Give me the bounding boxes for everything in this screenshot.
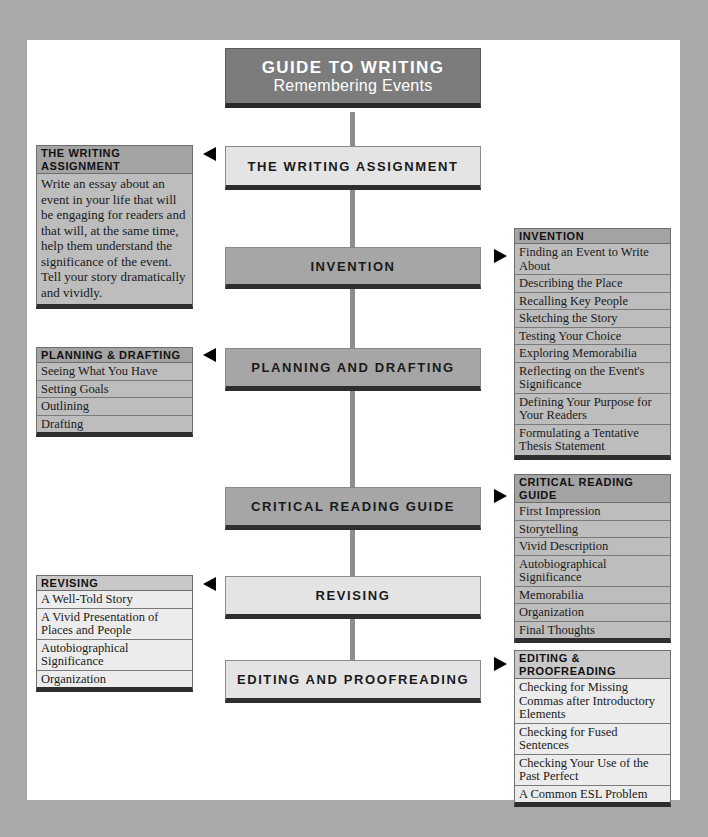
editing-proofreading-box: EDITING & PROOFREADING Checking for Miss… xyxy=(514,650,671,807)
list-item[interactable]: Seeing What You Have xyxy=(37,363,192,381)
stage-invention[interactable]: INVENTION xyxy=(225,247,481,289)
stage-label: REVISING xyxy=(316,588,391,603)
assignment-text: Write an essay about an event in your li… xyxy=(37,174,192,304)
box-header: CRITICAL READING GUIDE xyxy=(515,475,670,503)
list-item[interactable]: Checking for Fused Sentences xyxy=(515,724,670,755)
list-item[interactable]: Organization xyxy=(515,604,670,622)
box-header: REVISING xyxy=(37,576,192,591)
list-item[interactable]: Describing the Place xyxy=(515,275,670,293)
arrow-right-icon xyxy=(494,657,507,671)
stage-editing-proofreading[interactable]: EDITING AND PROOFREADING xyxy=(225,660,481,703)
box-header: THE WRITING ASSIGNMENT xyxy=(37,146,192,174)
list-item[interactable]: Storytelling xyxy=(515,521,670,539)
list-item[interactable]: Sketching the Story xyxy=(515,310,670,328)
list-item[interactable]: First Impression xyxy=(515,503,670,521)
arrow-left-icon xyxy=(203,147,216,161)
arrow-left-icon xyxy=(203,348,216,362)
writing-assignment-box: THE WRITING ASSIGNMENT Write an essay ab… xyxy=(36,145,193,309)
arrow-right-icon xyxy=(494,489,507,503)
list-item[interactable]: Vivid Description xyxy=(515,538,670,556)
list-item[interactable]: Outlining xyxy=(37,398,192,416)
box-header: PLANNING & DRAFTING xyxy=(37,348,192,363)
list-item[interactable]: Exploring Memorabilia xyxy=(515,345,670,363)
arrow-left-icon xyxy=(203,577,216,591)
list-item[interactable]: Recalling Key People xyxy=(515,293,670,311)
guide-title-box: GUIDE TO WRITING Remembering Events xyxy=(225,48,481,108)
list-item[interactable]: Memorabilia xyxy=(515,587,670,605)
list-item[interactable]: Checking for Missing Commas after Introd… xyxy=(515,679,670,724)
arrow-right-icon xyxy=(494,249,507,263)
list-item[interactable]: Defining Your Purpose for Your Readers xyxy=(515,394,670,425)
stage-writing-assignment[interactable]: THE WRITING ASSIGNMENT xyxy=(225,146,481,190)
guide-subtitle: Remembering Events xyxy=(226,77,480,95)
stage-revising[interactable]: REVISING xyxy=(225,576,481,619)
list-item[interactable]: Testing Your Choice xyxy=(515,328,670,346)
stage-label: INVENTION xyxy=(310,259,395,274)
list-item[interactable]: Reflecting on the Event's Significance xyxy=(515,363,670,394)
stage-label: CRITICAL READING GUIDE xyxy=(251,499,455,514)
guide-title: GUIDE TO WRITING xyxy=(226,58,480,77)
list-item[interactable]: Final Thoughts xyxy=(515,622,670,639)
stage-critical-reading-guide[interactable]: CRITICAL READING GUIDE xyxy=(225,487,481,530)
invention-box: INVENTION Finding an Event to Write Abou… xyxy=(514,228,671,460)
list-item[interactable]: A Well-Told Story xyxy=(37,591,192,609)
critical-reading-guide-box: CRITICAL READING GUIDE First Impression … xyxy=(514,474,671,643)
list-item[interactable]: Checking Your Use of the Past Perfect xyxy=(515,755,670,786)
planning-drafting-box: PLANNING & DRAFTING Seeing What You Have… xyxy=(36,347,193,437)
list-item[interactable]: A Vivid Presentation of Places and Peopl… xyxy=(37,609,192,640)
box-header: EDITING & PROOFREADING xyxy=(515,651,670,679)
list-item[interactable]: Drafting xyxy=(37,416,192,433)
list-item[interactable]: Autobiographical Significance xyxy=(515,556,670,587)
list-item[interactable]: Autobiographical Significance xyxy=(37,640,192,671)
box-header: INVENTION xyxy=(515,229,670,244)
revising-box: REVISING A Well-Told Story A Vivid Prese… xyxy=(36,575,193,692)
stage-label: EDITING AND PROOFREADING xyxy=(237,672,469,687)
list-item[interactable]: Setting Goals xyxy=(37,381,192,399)
list-item[interactable]: A Common ESL Problem xyxy=(515,786,670,803)
list-item[interactable]: Finding an Event to Write About xyxy=(515,244,670,275)
stage-label: THE WRITING ASSIGNMENT xyxy=(248,159,459,174)
stage-label: PLANNING AND DRAFTING xyxy=(251,360,455,375)
stage-planning-drafting[interactable]: PLANNING AND DRAFTING xyxy=(225,348,481,391)
list-item[interactable]: Formulating a Tentative Thesis Statement xyxy=(515,425,670,455)
list-item[interactable]: Organization xyxy=(37,671,192,688)
